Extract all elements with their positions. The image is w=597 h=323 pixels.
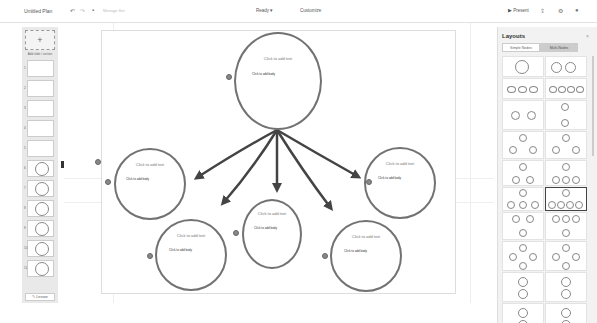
layout-option[interactable] — [502, 303, 544, 323]
layout-option[interactable] — [545, 241, 587, 271]
layout-option[interactable] — [545, 78, 587, 99]
layout-option[interactable] — [502, 131, 544, 159]
child-node[interactable]: Click to add text Click to add body — [364, 147, 436, 219]
layout-option[interactable] — [502, 56, 544, 77]
layout-option[interactable] — [502, 272, 544, 302]
scrollbar[interactable] — [592, 56, 594, 156]
node-handle[interactable] — [226, 74, 232, 80]
layout-option[interactable] — [502, 78, 544, 99]
tab-multi-nodes[interactable]: Multi-Nodes — [540, 43, 578, 52]
layouts-title: Layouts — [502, 33, 525, 39]
node-handle[interactable] — [233, 230, 239, 236]
layout-option[interactable] — [502, 212, 544, 240]
layout-option[interactable] — [545, 303, 587, 323]
layout-option[interactable] — [545, 212, 587, 240]
layout-option[interactable] — [545, 160, 587, 186]
close-icon[interactable]: × — [586, 33, 589, 39]
layout-option[interactable] — [502, 100, 544, 130]
node-handle[interactable] — [95, 159, 101, 165]
node-handle[interactable] — [366, 179, 372, 185]
child-node[interactable]: Click to add text Click to add body — [242, 199, 302, 269]
node-handle[interactable] — [105, 179, 111, 185]
layout-option-selected[interactable] — [545, 187, 587, 211]
child-node[interactable]: Click to add text Click to add body — [330, 220, 402, 292]
layout-option[interactable] — [502, 187, 544, 211]
layout-option[interactable] — [545, 131, 587, 159]
layout-option[interactable] — [545, 100, 587, 130]
tab-simple-nodes[interactable]: Simple Nodes — [502, 43, 540, 52]
layout-option[interactable] — [502, 241, 544, 271]
layout-option[interactable] — [545, 56, 587, 77]
node-handle[interactable] — [322, 253, 328, 259]
node-handle[interactable] — [147, 253, 153, 259]
layout-option[interactable] — [502, 160, 544, 186]
child-node[interactable]: Click to add text Click to add body — [114, 148, 186, 220]
layout-option[interactable] — [545, 272, 587, 302]
layouts-panel: Layouts × Simple Nodes Multi-Nodes — [497, 27, 597, 323]
center-node[interactable]: Click to add text Click to add body — [234, 32, 322, 130]
child-node[interactable]: Click to add text Click to add body — [155, 219, 227, 291]
